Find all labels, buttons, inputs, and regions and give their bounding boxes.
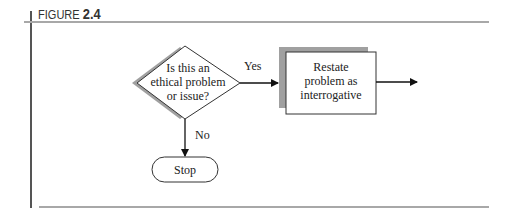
terminal-node: Stop xyxy=(152,157,218,182)
process-text-line-3: interrogative xyxy=(300,88,361,102)
process-node: Restate problem as interrogative xyxy=(279,47,376,114)
no-label: No xyxy=(195,128,210,142)
process-text-line-2: problem as xyxy=(305,74,358,88)
decision-node: Is this an ethical problem or issue? xyxy=(132,46,240,119)
decision-text-line-3: or issue? xyxy=(167,89,209,103)
decision-text-line-2: ethical problem xyxy=(151,75,227,89)
decision-text-line-1: Is this an xyxy=(166,61,209,75)
process-text-line-1: Restate xyxy=(313,60,348,74)
flowchart: Is this an ethical problem or issue? Yes… xyxy=(0,0,511,216)
yes-label: Yes xyxy=(244,59,262,73)
stop-label: Stop xyxy=(174,163,196,177)
